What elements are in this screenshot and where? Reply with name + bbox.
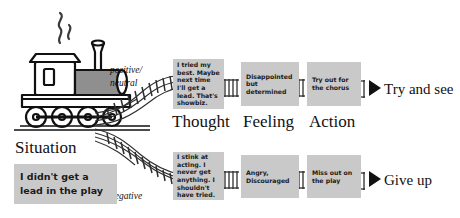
- feeling-text-negative: Angry, Discouraged: [246, 169, 294, 184]
- situation-note-text: I didn't get a lead in the play: [20, 170, 111, 198]
- column-heading-action: Action: [309, 112, 355, 132]
- thought-text-positive: I tried my best. Maybe next time I'll ge…: [177, 61, 220, 106]
- cbt-train-diagram: positive/ neutral negative Situation I d…: [0, 0, 460, 218]
- column-heading-feeling: Feeling: [243, 112, 294, 132]
- feeling-text-positive: Disappointed but determined: [246, 73, 294, 96]
- situation-heading: Situation: [15, 138, 76, 158]
- action-box-negative: Miss out on the play: [307, 155, 361, 198]
- thought-text-negative: I stink at acting. I never get anything.…: [177, 153, 220, 198]
- smoke-puff-icon: [59, 13, 71, 43]
- outcome-label-negative: Give up: [384, 172, 432, 189]
- outcome-label-positive: Try and see: [384, 81, 453, 98]
- column-heading-thought: Thought: [172, 112, 230, 132]
- right-triangle-arrow-icon: [369, 171, 381, 187]
- thought-box-positive: I tried my best. Maybe next time I'll ge…: [173, 59, 224, 109]
- railroad-track-icon: [221, 169, 241, 191]
- right-triangle-arrow-icon: [369, 80, 381, 96]
- feeling-box-negative: Angry, Discouraged: [241, 155, 299, 198]
- feeling-box-positive: Disappointed but determined: [241, 62, 299, 106]
- valence-label-positive: positive/ neutral: [110, 64, 142, 90]
- railroad-track-icon: [221, 77, 241, 99]
- action-text-positive: Try out for the chorus: [312, 76, 356, 91]
- action-box-positive: Try out for the chorus: [307, 62, 361, 106]
- thought-box-negative: I stink at acting. I never get anything.…: [173, 152, 224, 200]
- action-text-negative: Miss out on the play: [312, 169, 356, 184]
- situation-note-box: I didn't get a lead in the play: [14, 164, 117, 204]
